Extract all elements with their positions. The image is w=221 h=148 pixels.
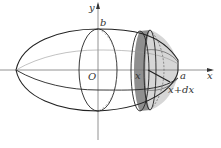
y-axis-label: y [88, 2, 95, 13]
y-axis-arrow-icon [96, 2, 100, 9]
b-label: b [100, 17, 106, 28]
ellipsoid-diagram: y b O x a x x+dx [0, 0, 221, 148]
origin-label: O [88, 71, 96, 82]
x-plus-dx-label: x+dx [168, 84, 194, 95]
x-axis-label: x [207, 70, 213, 81]
x-label: x [135, 70, 141, 81]
a-label: a [180, 70, 186, 81]
